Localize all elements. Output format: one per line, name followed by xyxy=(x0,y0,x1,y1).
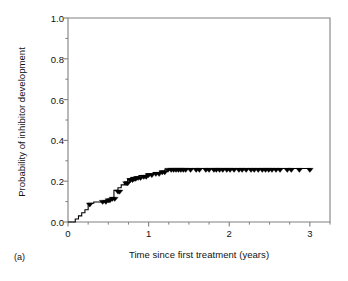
plot-area xyxy=(0,0,348,281)
figure-panel: Probability of inhibitor development Tim… xyxy=(0,0,348,281)
censor-marker-triangle-icon xyxy=(306,168,313,172)
censor-marker-triangle-icon xyxy=(86,203,93,207)
censor-marker-triangle-icon xyxy=(187,168,194,172)
survival-step-curve xyxy=(68,169,311,222)
plot-frame xyxy=(68,18,330,222)
censor-marker-triangle-icon xyxy=(296,168,303,172)
